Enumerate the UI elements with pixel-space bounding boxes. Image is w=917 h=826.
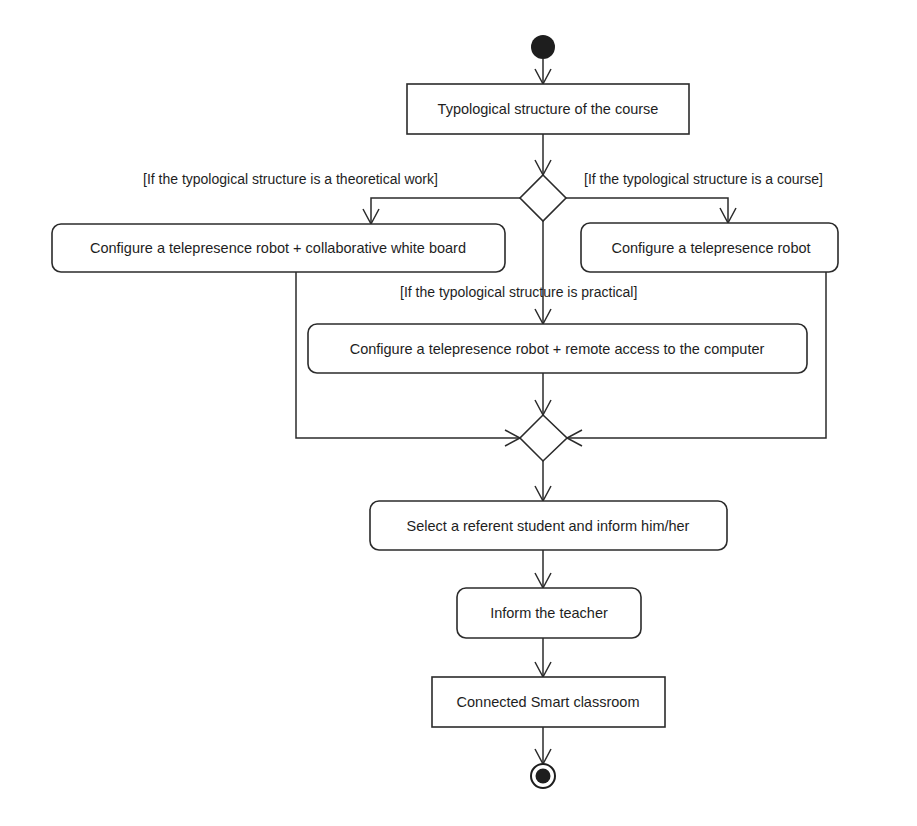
decision-node bbox=[520, 175, 566, 221]
merge-node bbox=[520, 415, 567, 461]
action-robot-whiteboard-label: Configure a telepresence robot + collabo… bbox=[90, 240, 466, 256]
edge-decision-to-robot bbox=[566, 198, 728, 223]
action-connected-smart-classroom-label: Connected Smart classroom bbox=[457, 694, 640, 710]
action-typological-structure-label: Typological structure of the course bbox=[438, 101, 659, 117]
action-inform-teacher-label: Inform the teacher bbox=[490, 605, 608, 621]
activity-diagram: Typological structure of the course [If … bbox=[0, 0, 917, 826]
final-node-inner bbox=[536, 769, 551, 784]
guard-practical: [If the typological structure is practic… bbox=[400, 284, 637, 300]
guard-course: [If the typological structure is a cours… bbox=[584, 171, 823, 187]
action-select-referent-student-label: Select a referent student and inform him… bbox=[407, 518, 690, 534]
action-robot-label: Configure a telepresence robot bbox=[611, 240, 810, 256]
initial-node bbox=[531, 35, 555, 59]
guard-theoretical: [If the typological structure is a theor… bbox=[143, 171, 438, 187]
action-robot-remote-access-label: Configure a telepresence robot + remote … bbox=[350, 341, 765, 357]
edge-decision-to-whiteboard bbox=[371, 198, 520, 224]
